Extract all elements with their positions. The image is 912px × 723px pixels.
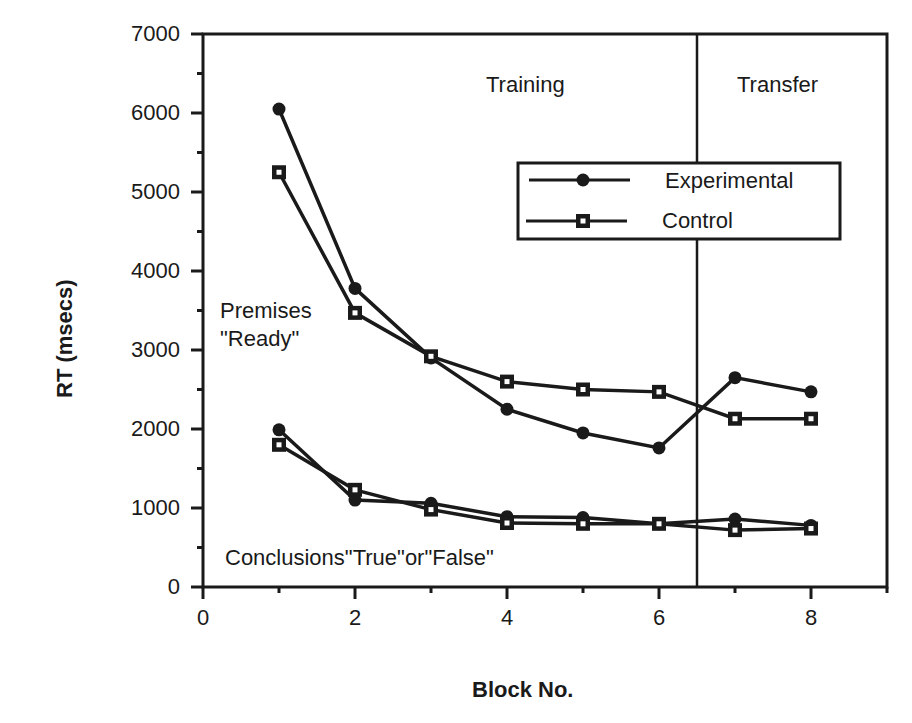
marker-circle bbox=[729, 371, 742, 384]
marker-circle bbox=[349, 282, 362, 295]
annotation-transfer: Transfer bbox=[737, 72, 818, 98]
annotation-conclusions: Conclusions"True"or"False" bbox=[225, 545, 494, 571]
legend-label-experimental: Experimental bbox=[665, 168, 793, 194]
x-tick-label: 8 bbox=[791, 605, 831, 631]
marker-circle bbox=[653, 441, 666, 454]
annotation-premises: Premises bbox=[220, 298, 312, 324]
y-tick-label: 1000 bbox=[100, 495, 180, 521]
y-tick-label: 4000 bbox=[100, 258, 180, 284]
x-tick-label: 2 bbox=[335, 605, 375, 631]
y-tick-label: 0 bbox=[100, 574, 180, 600]
x-tick-label: 0 bbox=[183, 605, 223, 631]
y-tick-label: 7000 bbox=[100, 21, 180, 47]
annotation-training: Training bbox=[486, 72, 565, 98]
x-tick-label: 4 bbox=[487, 605, 527, 631]
marker-circle bbox=[577, 426, 590, 439]
series-line-experimental bbox=[279, 109, 811, 448]
marker-circle bbox=[273, 423, 286, 436]
series-line-experimental bbox=[279, 430, 811, 526]
annotation-ready: "Ready" bbox=[220, 326, 299, 352]
y-tick-label: 3000 bbox=[100, 337, 180, 363]
x-tick-label: 6 bbox=[639, 605, 679, 631]
legend-marker-experimental bbox=[577, 174, 590, 187]
marker-circle bbox=[805, 385, 818, 398]
y-tick-label: 6000 bbox=[100, 100, 180, 126]
y-axis-title: RT (msecs) bbox=[52, 248, 78, 398]
y-tick-label: 2000 bbox=[100, 416, 180, 442]
marker-circle bbox=[273, 103, 286, 116]
x-axis-title: Block No. bbox=[472, 677, 573, 703]
marker-circle bbox=[501, 403, 514, 416]
legend-label-control: Control bbox=[662, 208, 733, 234]
y-tick-label: 5000 bbox=[100, 179, 180, 205]
